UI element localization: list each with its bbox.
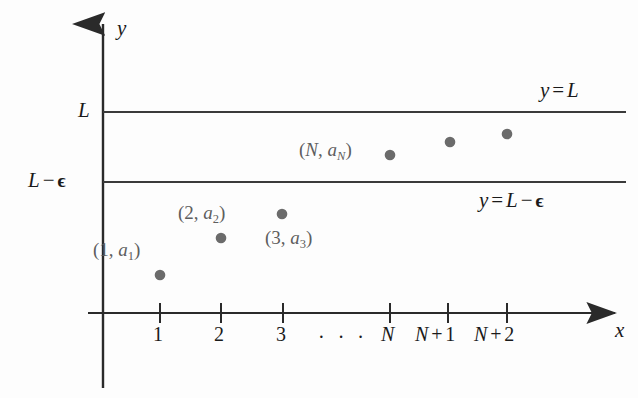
minus-operator: − <box>40 168 58 192</box>
paren-close-2: ) <box>219 202 225 223</box>
one-symbol: 1 <box>445 323 455 345</box>
equals-operator-upper: = <box>549 78 567 102</box>
epsilon-symbol: ϵ <box>57 170 65 191</box>
data-point-label-2: (2, a2) <box>178 203 225 225</box>
N-symbol-2: N <box>474 323 487 345</box>
limit-of-sequence-figure: y x L L−ϵ y=L y=L−ϵ 1 2 3 · · · N N+1 N+… <box>0 0 638 398</box>
data-point-2 <box>216 233 227 244</box>
line-label-upper-y: y <box>540 78 549 102</box>
epsilon-symbol-lower: ϵ <box>535 190 543 211</box>
data-point-label-N: (N, aN) <box>299 140 352 162</box>
point-x-1: 1 <box>99 239 109 260</box>
line-label-lower-y: y <box>479 188 488 212</box>
data-point-N-plus-1 <box>445 137 456 148</box>
line-label-lower-L: L <box>506 188 518 212</box>
line-label-upper: y=L <box>540 80 579 101</box>
point-x-2: 2 <box>184 202 194 223</box>
paren-close-N: ) <box>345 139 351 160</box>
N-symbol-1: N <box>415 323 428 345</box>
point-x-N: N <box>305 139 318 160</box>
data-point-N-plus-2 <box>502 129 513 140</box>
x-tick-label-2: 2 <box>214 324 224 344</box>
x-tick-label-3: 3 <box>276 324 286 344</box>
x-tick-label-N: N <box>381 324 394 344</box>
data-point-1 <box>155 270 166 281</box>
point-a-2: a <box>203 202 213 223</box>
point-x-3: 3 <box>271 227 281 248</box>
x-axis-ellipsis: · · · <box>318 326 368 349</box>
x-tick-label-N-plus-1: N+1 <box>415 324 455 344</box>
paren-close-1: ) <box>134 239 140 260</box>
comma-2: , <box>194 202 204 223</box>
plus-operator-2: + <box>487 323 504 345</box>
x-axis-label: x <box>615 320 624 341</box>
paren-close-3: ) <box>306 227 312 248</box>
line-label-upper-L: L <box>567 78 579 102</box>
point-a-3: a <box>290 227 300 248</box>
point-a-N: a <box>328 139 338 160</box>
data-point-label-3: (3, a3) <box>265 228 312 250</box>
equals-operator-lower: = <box>488 188 506 212</box>
line-label-lower: y=L−ϵ <box>479 190 544 211</box>
data-point-label-1: (1, a1) <box>93 240 140 262</box>
minus-operator-lower: − <box>518 188 536 212</box>
point-a-1: a <box>118 239 128 260</box>
plus-operator-1: + <box>428 323 445 345</box>
data-point-N <box>385 150 396 161</box>
x-tick-label-N-plus-2: N+2 <box>474 324 514 344</box>
y-value-label-L: L <box>78 100 90 121</box>
comma-3: , <box>281 227 291 248</box>
x-tick-label-1: 1 <box>153 324 163 344</box>
comma-N: , <box>318 139 328 160</box>
data-point-3 <box>277 209 288 220</box>
y-value-L-part: L <box>28 168 40 192</box>
two-symbol: 2 <box>504 323 514 345</box>
comma-1: , <box>109 239 119 260</box>
y-axis-label: y <box>117 18 126 39</box>
y-value-label-L-minus-epsilon: L−ϵ <box>28 170 66 191</box>
